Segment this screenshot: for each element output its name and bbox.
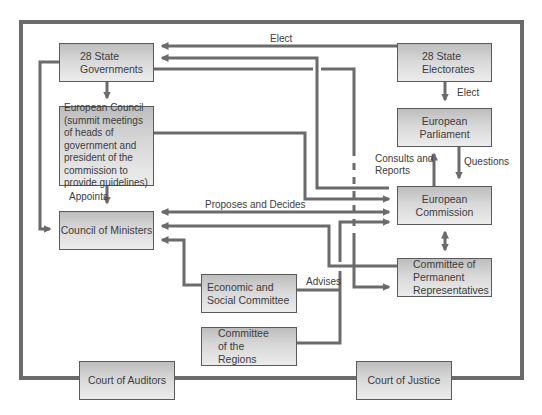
edge-label-proposes-and-decides: Proposes and Decides	[205, 199, 306, 211]
node-label: Council of Ministers	[61, 224, 153, 237]
node-coreper: Committee of Permanent Representatives	[397, 258, 492, 297]
edge-label-elect-top: Elect	[270, 33, 292, 45]
edge-label-elect-right: Elect	[457, 87, 479, 99]
node-label: Economic and Social Committee	[207, 281, 296, 307]
node-european-parliament: European Parliament	[397, 108, 492, 147]
edge-label-appoints: Appoints	[69, 191, 108, 203]
node-council-of-ministers: Council of Ministers	[59, 211, 154, 250]
node-label: European Parliament	[398, 115, 491, 141]
edge-label-questions: Questions	[464, 156, 509, 168]
node-label: European Commission	[415, 193, 475, 219]
node-state-governments: 28 State Governments	[59, 43, 154, 82]
node-label: Court of Auditors	[88, 374, 166, 387]
node-court-of-auditors: Court of Auditors	[79, 361, 175, 400]
node-court-of-justice: Court of Justice	[356, 361, 452, 400]
node-label: 28 State Governments	[80, 50, 140, 76]
edge-label-consults-and-reports: Consults and Reports	[375, 153, 435, 177]
node-label: Court of Justice	[368, 374, 441, 387]
node-european-council: European Council (summit meetings of hea…	[59, 106, 154, 186]
node-label: 28 State Electorates	[422, 50, 477, 76]
node-label: European Council (summit meetings of hea…	[64, 102, 153, 190]
edge-label-advises: Advises	[306, 276, 341, 288]
node-label: Committee of Permanent Representatives	[413, 258, 491, 297]
node-state-electorates: 28 State Electorates	[397, 43, 492, 82]
node-committee-of-regions: Committee of the Regions	[201, 327, 297, 366]
node-european-commission: European Commission	[397, 186, 492, 225]
label-text: Consults and Reports	[375, 153, 433, 176]
node-economic-social-committee: Economic and Social Committee	[201, 274, 297, 313]
node-label: Committee of the Regions	[218, 327, 280, 366]
